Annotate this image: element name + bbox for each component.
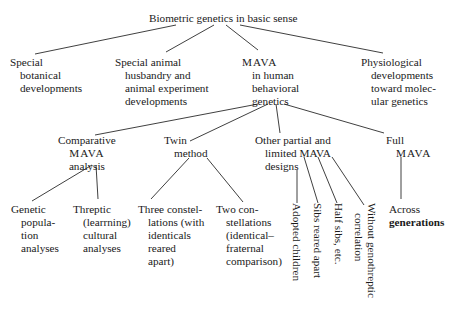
node-line: correlation bbox=[352, 203, 365, 298]
node-mava-human: MAVA in human behavioral genetics bbox=[242, 56, 299, 108]
node-line: Two con- bbox=[216, 203, 282, 216]
node-line: analyses bbox=[11, 242, 59, 255]
root-node: Biometric genetics in basic sense bbox=[149, 12, 298, 25]
node-adopted-children: Adopted children bbox=[290, 203, 303, 281]
edge-twin-two bbox=[207, 158, 243, 202]
node-line: comparison) bbox=[216, 255, 282, 268]
node-line: reared bbox=[138, 242, 204, 255]
node-without-genothreptic: Without genothreptic correlation bbox=[352, 203, 378, 298]
node-line: botanical bbox=[10, 69, 82, 82]
node-line: animal experiment bbox=[115, 82, 209, 95]
node-three-constellations: Three constel- lations (with identicals … bbox=[138, 203, 204, 268]
node-line: method bbox=[164, 147, 208, 160]
node-line: stellations bbox=[216, 216, 282, 229]
node-line: analyses bbox=[73, 242, 131, 255]
node-genetic-population: Genetic popula- tion analyses bbox=[11, 203, 59, 255]
node-special-botanical: Special botanical developments bbox=[10, 56, 82, 95]
node-line: lations (with bbox=[138, 216, 204, 229]
node-line: Twin bbox=[164, 134, 208, 147]
node-line: developments bbox=[10, 82, 82, 95]
node-line: husbandry and bbox=[115, 69, 209, 82]
node-line: Special bbox=[10, 56, 82, 69]
root-label: Biometric genetics in basic sense bbox=[149, 12, 298, 25]
node-line: generations bbox=[389, 216, 444, 229]
edge-mava-full bbox=[284, 104, 384, 133]
node-threptic-cultural: Threptic (learrning) cultural analyses bbox=[73, 203, 131, 255]
node-line: ular genetics bbox=[361, 95, 436, 108]
edge-root-animal bbox=[166, 25, 214, 52]
node-line: cultural bbox=[73, 229, 131, 242]
edge-root-physiological bbox=[240, 25, 383, 53]
node-line: (identical– bbox=[216, 229, 282, 242]
edge-mava-other bbox=[276, 104, 280, 133]
node-line: analysis bbox=[58, 160, 116, 173]
node-line: behavioral bbox=[242, 82, 299, 95]
node-line: Genetic bbox=[11, 203, 59, 216]
node-line: Special animal bbox=[115, 56, 209, 69]
node-line: Physiological bbox=[361, 56, 436, 69]
node-line: Other partial and bbox=[255, 134, 331, 147]
node-line: (learrning) bbox=[73, 216, 131, 229]
node-line: toward molec- bbox=[361, 82, 436, 95]
node-special-animal: Special animal husbandry and animal expe… bbox=[115, 56, 209, 108]
node-two-constellations: Two con- stellations (identical– fratern… bbox=[216, 203, 282, 268]
node-line: tion bbox=[11, 229, 59, 242]
node-line: developments bbox=[361, 69, 436, 82]
edge-mava-comparative bbox=[95, 104, 258, 135]
node-line: developments bbox=[115, 95, 209, 108]
node-line: genetics bbox=[242, 95, 299, 108]
node-line: MAVA bbox=[386, 147, 431, 160]
node-across-generations: Across generations bbox=[389, 203, 444, 229]
edge-twin-three bbox=[151, 158, 189, 199]
node-comparative-mava: Comparative MAVA analysis bbox=[58, 134, 116, 173]
node-line: Comparative bbox=[58, 134, 116, 147]
edge-other-without bbox=[332, 157, 364, 205]
node-line: Full bbox=[386, 134, 431, 147]
node-line: Adopted children bbox=[291, 203, 303, 281]
node-twin-method: Twin method bbox=[164, 134, 208, 160]
node-line: in human bbox=[242, 69, 299, 82]
edge-root-mava bbox=[226, 25, 258, 50]
node-other-partial: Other partial and limited MAVA designs bbox=[255, 134, 331, 173]
node-line: Without genothreptic bbox=[365, 203, 378, 298]
node-line: fraternal bbox=[216, 242, 282, 255]
node-line: Sibs reared apart bbox=[312, 203, 324, 278]
node-sibs-reared-apart: Sibs reared apart bbox=[311, 203, 324, 278]
node-line: limited MAVA bbox=[255, 147, 331, 160]
node-physiological: Physiological developments toward molec-… bbox=[361, 56, 436, 108]
node-half-sibs: Half sibs, etc. bbox=[332, 203, 345, 265]
node-line: designs bbox=[255, 160, 331, 173]
edge-root-botanical bbox=[35, 25, 176, 54]
node-line: apart) bbox=[138, 255, 204, 268]
node-line: popula- bbox=[11, 216, 59, 229]
node-line: Three constel- bbox=[138, 203, 204, 216]
node-line: Half sibs, etc. bbox=[333, 203, 345, 265]
node-line: MAVA bbox=[242, 56, 299, 69]
node-line: MAVA bbox=[58, 147, 116, 160]
node-full-mava: Full MAVA bbox=[386, 134, 431, 160]
node-line: identicals bbox=[138, 229, 204, 242]
node-line: Across bbox=[389, 203, 444, 216]
node-line: Threptic bbox=[73, 203, 131, 216]
